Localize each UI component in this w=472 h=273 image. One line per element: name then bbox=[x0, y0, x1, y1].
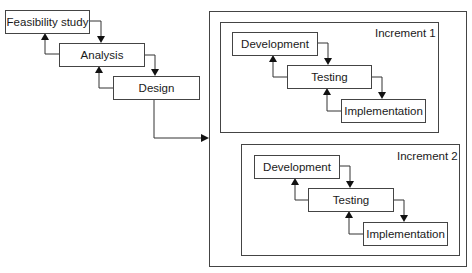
arrowhead-up-icon bbox=[95, 66, 103, 73]
edge-design-container bbox=[154, 99, 202, 138]
phase-analysis: Analysis bbox=[59, 43, 145, 67]
stage-label: Development bbox=[241, 38, 309, 50]
edge-analysis-design bbox=[144, 55, 155, 73]
edge-design-analysis bbox=[99, 70, 113, 88]
increment-1-testing: Testing bbox=[287, 65, 372, 89]
stage-label: Implementation bbox=[344, 105, 423, 117]
increment-1-implementation: Implementation bbox=[341, 99, 426, 123]
arrowhead-down-icon bbox=[97, 36, 105, 43]
arrowhead-right-icon bbox=[201, 134, 209, 142]
increment-2-development: Development bbox=[254, 155, 340, 179]
incremental-model-diagram: Feasibility study Analysis Design Increm… bbox=[0, 0, 472, 273]
edge-analysis-feasibility bbox=[45, 37, 59, 54]
increment-2-label: Increment 2 bbox=[397, 150, 458, 162]
phase-design: Design bbox=[113, 76, 200, 100]
phase-feasibility-study: Feasibility study bbox=[5, 10, 90, 34]
stage-label: Testing bbox=[311, 71, 347, 83]
phase-label: Analysis bbox=[81, 49, 124, 61]
stage-label: Testing bbox=[333, 194, 369, 206]
arrowhead-down-icon bbox=[151, 69, 159, 76]
edge-feasibility-analysis bbox=[89, 21, 101, 40]
increment-2-implementation: Implementation bbox=[363, 222, 448, 246]
stage-label: Implementation bbox=[366, 228, 445, 240]
phase-label: Feasibility study bbox=[7, 16, 89, 28]
stage-label: Development bbox=[263, 161, 331, 173]
phase-label: Design bbox=[139, 82, 175, 94]
arrowhead-up-icon bbox=[41, 33, 49, 40]
increment-2-testing: Testing bbox=[308, 188, 394, 212]
increment-1-development: Development bbox=[232, 32, 318, 56]
increment-1-label: Increment 1 bbox=[375, 27, 436, 39]
